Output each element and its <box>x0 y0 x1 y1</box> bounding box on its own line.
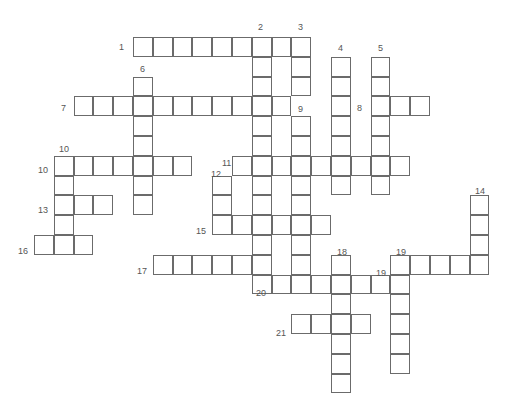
grid-cell[interactable] <box>252 176 272 196</box>
grid-cell[interactable] <box>252 156 272 176</box>
grid-cell[interactable] <box>272 37 292 57</box>
grid-cell[interactable] <box>153 255 173 275</box>
grid-cell[interactable] <box>252 235 272 255</box>
grid-cell[interactable] <box>331 116 351 136</box>
grid-cell[interactable] <box>212 37 232 57</box>
grid-cell[interactable] <box>291 255 311 275</box>
grid-cell[interactable] <box>54 156 74 176</box>
grid-cell[interactable] <box>54 235 74 255</box>
grid-cell[interactable] <box>192 37 212 57</box>
grid-cell[interactable] <box>470 215 490 235</box>
grid-cell[interactable] <box>470 255 490 275</box>
grid-cell[interactable] <box>252 195 272 215</box>
grid-cell[interactable] <box>291 314 311 334</box>
grid-cell[interactable] <box>291 116 311 136</box>
grid-cell[interactable] <box>74 96 94 116</box>
grid-cell[interactable] <box>54 176 74 196</box>
grid-cell[interactable] <box>133 195 153 215</box>
grid-cell[interactable] <box>331 294 351 314</box>
grid-cell[interactable] <box>291 176 311 196</box>
grid-cell[interactable] <box>351 314 371 334</box>
grid-cell[interactable] <box>113 96 133 116</box>
grid-cell[interactable] <box>272 156 292 176</box>
grid-cell[interactable] <box>133 96 153 116</box>
grid-cell[interactable] <box>252 255 272 275</box>
grid-cell[interactable] <box>232 255 252 275</box>
grid-cell[interactable] <box>371 57 391 77</box>
grid-cell[interactable] <box>331 96 351 116</box>
grid-cell[interactable] <box>390 156 410 176</box>
grid-cell[interactable] <box>331 176 351 196</box>
grid-cell[interactable] <box>133 156 153 176</box>
grid-cell[interactable] <box>291 37 311 57</box>
grid-cell[interactable] <box>371 116 391 136</box>
grid-cell[interactable] <box>153 37 173 57</box>
grid-cell[interactable] <box>153 96 173 116</box>
grid-cell[interactable] <box>212 215 232 235</box>
grid-cell[interactable] <box>291 156 311 176</box>
grid-cell[interactable] <box>450 255 470 275</box>
grid-cell[interactable] <box>311 275 331 295</box>
grid-cell[interactable] <box>390 275 410 295</box>
grid-cell[interactable] <box>74 235 94 255</box>
grid-cell[interactable] <box>232 37 252 57</box>
grid-cell[interactable] <box>390 354 410 374</box>
grid-cell[interactable] <box>410 255 430 275</box>
grid-cell[interactable] <box>153 156 173 176</box>
grid-cell[interactable] <box>331 77 351 97</box>
grid-cell[interactable] <box>133 77 153 97</box>
grid-cell[interactable] <box>331 57 351 77</box>
grid-cell[interactable] <box>390 294 410 314</box>
grid-cell[interactable] <box>291 77 311 97</box>
grid-cell[interactable] <box>291 275 311 295</box>
grid-cell[interactable] <box>371 77 391 97</box>
grid-cell[interactable] <box>371 136 391 156</box>
grid-cell[interactable] <box>133 37 153 57</box>
grid-cell[interactable] <box>331 314 351 334</box>
grid-cell[interactable] <box>291 57 311 77</box>
grid-cell[interactable] <box>272 96 292 116</box>
grid-cell[interactable] <box>54 215 74 235</box>
grid-cell[interactable] <box>371 176 391 196</box>
grid-cell[interactable] <box>430 255 450 275</box>
grid-cell[interactable] <box>331 156 351 176</box>
grid-cell[interactable] <box>133 176 153 196</box>
grid-cell[interactable] <box>252 96 272 116</box>
grid-cell[interactable] <box>74 156 94 176</box>
grid-cell[interactable] <box>390 255 410 275</box>
grid-cell[interactable] <box>272 215 292 235</box>
grid-cell[interactable] <box>212 195 232 215</box>
grid-cell[interactable] <box>351 156 371 176</box>
grid-cell[interactable] <box>54 195 74 215</box>
grid-cell[interactable] <box>331 275 351 295</box>
grid-cell[interactable] <box>291 235 311 255</box>
grid-cell[interactable] <box>331 334 351 354</box>
grid-cell[interactable] <box>311 314 331 334</box>
grid-cell[interactable] <box>291 195 311 215</box>
grid-cell[interactable] <box>173 96 193 116</box>
grid-cell[interactable] <box>173 255 193 275</box>
grid-cell[interactable] <box>74 195 94 215</box>
grid-cell[interactable] <box>390 96 410 116</box>
grid-cell[interactable] <box>351 275 371 295</box>
grid-cell[interactable] <box>173 37 193 57</box>
grid-cell[interactable] <box>390 334 410 354</box>
grid-cell[interactable] <box>34 235 54 255</box>
grid-cell[interactable] <box>93 96 113 116</box>
grid-cell[interactable] <box>252 57 272 77</box>
grid-cell[interactable] <box>291 215 311 235</box>
grid-cell[interactable] <box>252 77 272 97</box>
grid-cell[interactable] <box>133 136 153 156</box>
grid-cell[interactable] <box>113 156 133 176</box>
grid-cell[interactable] <box>192 255 212 275</box>
grid-cell[interactable] <box>232 156 252 176</box>
grid-cell[interactable] <box>93 195 113 215</box>
grid-cell[interactable] <box>410 96 430 116</box>
grid-cell[interactable] <box>272 275 292 295</box>
grid-cell[interactable] <box>133 116 153 136</box>
grid-cell[interactable] <box>212 255 232 275</box>
grid-cell[interactable] <box>252 136 272 156</box>
grid-cell[interactable] <box>252 215 272 235</box>
grid-cell[interactable] <box>331 374 351 394</box>
grid-cell[interactable] <box>192 96 212 116</box>
